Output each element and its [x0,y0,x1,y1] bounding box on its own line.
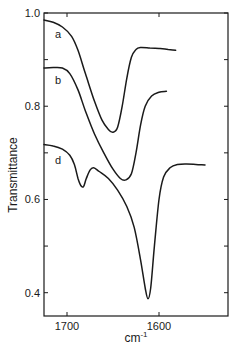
curve-labels: abd [55,28,62,166]
curve-label-a: a [55,28,62,40]
spectra-curves [44,20,205,299]
y-tick-label: 0.8 [25,100,40,112]
y-tick-label: 0.6 [25,193,40,205]
axis-ticks: 1.00.80.60.417001600 [25,7,228,332]
x-axis-label-superscript: -1 [140,330,148,339]
x-axis-label-base: cm [124,331,140,345]
curve-label-d: d [55,154,61,166]
ir-transmittance-chart: 1.00.80.60.417001600 abd Transmittance c… [0,0,238,352]
curve-label-b: b [55,74,61,86]
y-tick-label: 1.0 [25,7,40,19]
y-tick-label: 0.4 [25,287,40,299]
x-tick-label: 1700 [55,320,79,332]
y-axis-label: Transmittance [6,137,20,213]
curve-a [44,20,176,132]
curve-b [44,67,166,180]
x-tick-label: 1600 [147,320,171,332]
x-axis-label: cm-1 [124,330,148,345]
curve-d [44,145,205,299]
